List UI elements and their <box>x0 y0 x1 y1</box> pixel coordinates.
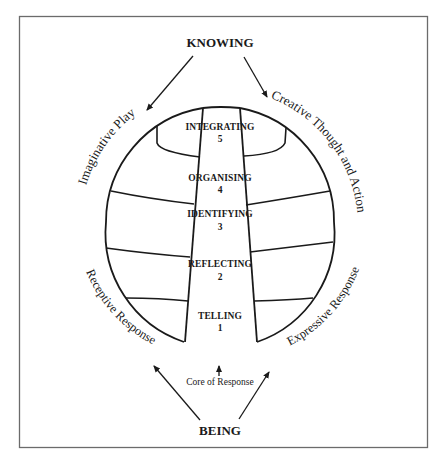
stage-number: 4 <box>170 185 270 195</box>
arrow-being-to-receptive <box>154 366 200 420</box>
knowing-label: KNOWING <box>170 35 270 51</box>
arrow-knowing-to-imaginative <box>147 56 193 110</box>
stage-name: TELLING <box>170 311 270 321</box>
core-of-response-label: Core of Response <box>160 377 280 387</box>
arc-label-receptive-response: Receptive Response <box>83 267 158 347</box>
stage-number: 2 <box>170 272 270 282</box>
arc-label-creative-thought: Creative Thought and Action <box>269 87 369 214</box>
stage-name: ORGANISING <box>170 173 270 183</box>
arc-label-expressive-response: Expressive Response <box>285 264 363 348</box>
stage-name: REFLECTING <box>170 259 270 269</box>
arrow-knowing-to-creative <box>244 57 267 97</box>
stage-name: INTEGRATING <box>170 122 270 132</box>
response-model-diagram: Imaginative Play Creative Thought and Ac… <box>0 0 444 460</box>
stage-number: 5 <box>170 134 270 144</box>
stage-number: 1 <box>170 323 270 333</box>
being-label: BEING <box>170 423 270 439</box>
stage-number: 3 <box>170 222 270 232</box>
arc-label-imaginative-play: Imaginative Play <box>74 104 138 186</box>
stage-name: IDENTIFYING <box>170 209 270 219</box>
